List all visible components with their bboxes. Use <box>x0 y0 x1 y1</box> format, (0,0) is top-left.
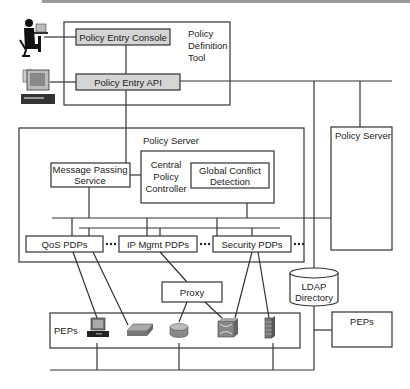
central-controller-label-2: Policy <box>153 171 179 182</box>
architecture-diagram: Policy Entry Console Policy Entry API Po… <box>0 0 410 389</box>
policy-server-right-box <box>331 127 392 250</box>
global-conflict-label-1: Global Conflict <box>199 165 261 176</box>
global-conflict-label-2: Detection <box>210 176 250 187</box>
ldap-label-2: Directory <box>295 292 333 303</box>
policy-server-right-label: Policy Server <box>335 130 391 141</box>
qos-pdps-label: QoS PDPs <box>42 239 88 250</box>
message-passing-label-1: Message Passing <box>53 164 128 175</box>
security-pdps-label: Security PDPs <box>221 239 282 250</box>
policy-entry-api-label: Policy Entry API <box>94 77 162 88</box>
central-controller-label-3: Controller <box>145 183 186 194</box>
router-icon <box>170 324 188 338</box>
peps-label: PEPs <box>54 325 78 336</box>
policy-definition-tool-label-2: Definition <box>188 40 228 51</box>
firewall-icon <box>265 316 275 338</box>
switch-icon <box>127 324 153 336</box>
peps-right-label: PEPs <box>350 316 374 327</box>
central-controller-label-1: Central <box>151 159 182 170</box>
computer-terminal-icon <box>21 70 55 104</box>
proxy-label: Proxy <box>180 287 205 298</box>
ip-mgmt-pdps-label: IP Mgmt PDPs <box>127 239 189 250</box>
user-at-desk-icon <box>20 19 48 56</box>
policy-server-label: Policy Server <box>143 135 199 146</box>
workstation-icon <box>87 318 109 337</box>
top-rule <box>42 0 410 3</box>
ldap-label-1: LDAP <box>302 281 327 292</box>
atm-switch-icon <box>218 318 238 337</box>
message-passing-label-2: Service <box>74 175 106 186</box>
policy-definition-tool-label-3: Tool <box>188 52 205 63</box>
policy-definition-tool-label-1: Policy <box>188 28 214 39</box>
policy-entry-console-label: Policy Entry Console <box>79 32 167 43</box>
